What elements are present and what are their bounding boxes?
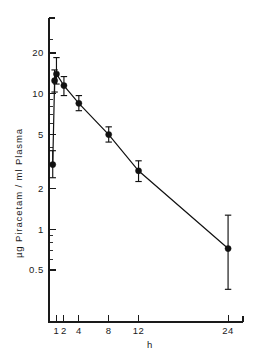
x-tick-label: 4 [76, 325, 82, 336]
y-axis-title: µg Piracetam / ml Plasma [13, 128, 24, 258]
x-axis-ticks [56, 315, 228, 322]
data-point [106, 131, 112, 137]
y-tick-label: 2 [38, 183, 44, 194]
y-axis-tick-labels: 0.51251020 [29, 47, 44, 275]
x-tick-label: 2 [61, 325, 67, 336]
y-tick-label: 0.5 [29, 264, 44, 275]
x-tick-label: 24 [222, 325, 234, 336]
data-point [51, 78, 57, 84]
x-tick-label: 12 [133, 325, 145, 336]
data-point [61, 82, 67, 88]
x-tick-label: 8 [106, 325, 112, 336]
data-point [135, 168, 141, 174]
data-point [76, 100, 82, 106]
chart-canvas: 0.51251020 12481224 µg Piracetam / ml Pl… [0, 0, 257, 357]
y-tick-label: 5 [38, 129, 44, 140]
y-tick-label: 10 [32, 88, 44, 99]
y-tick-label: 20 [32, 47, 44, 58]
y-tick-label: 1 [38, 224, 44, 235]
data-point [50, 161, 56, 167]
axes-group [49, 18, 243, 322]
x-axis-tick-labels: 12481224 [54, 325, 234, 336]
x-tick-label: 1 [54, 325, 60, 336]
axis-spine [49, 18, 243, 322]
x-axis-title: h [147, 339, 153, 350]
data-point [225, 245, 231, 251]
data-point [53, 71, 59, 77]
figure-container: 0.51251020 12481224 µg Piracetam / ml Pl… [0, 0, 257, 357]
